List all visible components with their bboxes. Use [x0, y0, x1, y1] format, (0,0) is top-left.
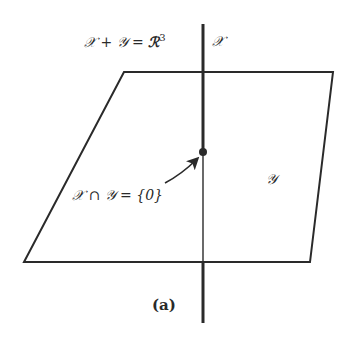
intersection-label: 𝒳 ∩ 𝒴 = {0}	[72, 188, 163, 202]
subspace-diagram	[0, 0, 343, 344]
plane-y	[24, 72, 333, 262]
origin-point	[199, 148, 207, 156]
sum-exponent: 3	[159, 32, 165, 43]
sum-lhs: 𝒳 + 𝒴 =	[84, 34, 148, 50]
sum-equation-label: 𝒳 + 𝒴 = ℛ3	[84, 33, 166, 49]
arrow-icon	[165, 159, 197, 183]
line-x-label: 𝒳	[212, 34, 224, 48]
sum-rhs: ℛ	[148, 34, 159, 50]
plane-y-label: 𝒴	[266, 172, 277, 186]
figure-caption: (a)	[152, 298, 176, 313]
